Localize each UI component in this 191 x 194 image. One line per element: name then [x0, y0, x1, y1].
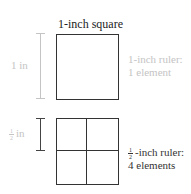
one-inch-description-line1: 1-inch ruler:	[128, 53, 183, 65]
half-inch-description-line2: 4 elements	[128, 159, 175, 171]
ruler-bottom-cap	[36, 98, 45, 99]
subdivided-square	[56, 118, 119, 185]
diagram-title: 1-inch square	[58, 17, 120, 32]
one-inch-description-line2: 1 element	[128, 66, 171, 78]
half-fraction: 1 2	[9, 128, 14, 141]
vertical-divider	[86, 118, 87, 185]
half-inch-description-line1: 1 2 -inch ruler:	[128, 146, 184, 160]
half-inch-ruler	[40, 118, 41, 151]
one-inch-square	[56, 34, 119, 100]
half-ruler-bottom-cap	[36, 150, 45, 151]
one-inch-ruler	[40, 33, 41, 99]
half-inch-ruler-label: 1 2 in	[9, 127, 25, 141]
one-inch-ruler-label: 1 in	[11, 59, 28, 71]
horizontal-divider	[56, 150, 119, 151]
